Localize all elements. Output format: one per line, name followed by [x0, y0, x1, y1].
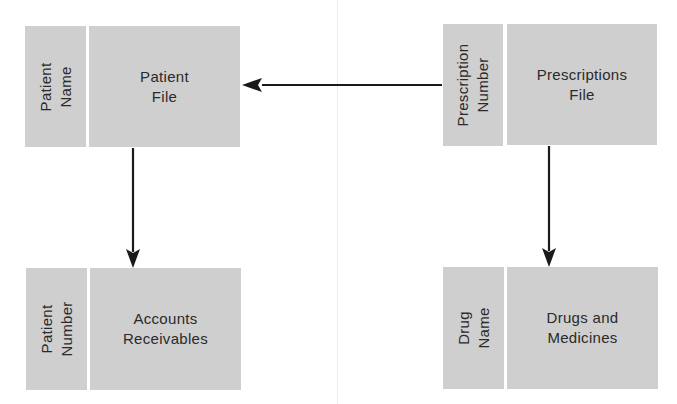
arrow-prescriptions-to-patient: [242, 78, 442, 92]
arrow-patient-to-accounts: [126, 148, 140, 268]
arrow-prescriptions-to-drugs: [542, 146, 556, 267]
arrows-layer: [0, 0, 677, 404]
